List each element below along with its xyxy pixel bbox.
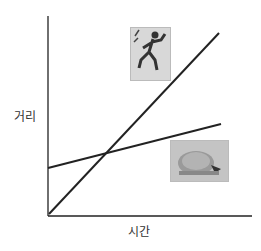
tortoise-image xyxy=(170,140,229,182)
runner-image xyxy=(130,27,171,81)
tortoise-icon xyxy=(171,141,228,181)
x-axis-label: 시간 xyxy=(128,222,150,239)
y-axis-label: 거리 xyxy=(14,107,36,124)
runner-icon xyxy=(131,28,170,80)
